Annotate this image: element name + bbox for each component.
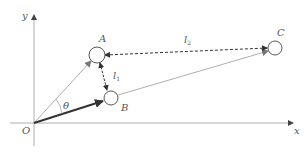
node-c <box>268 41 282 55</box>
l2-label: l2 <box>184 35 191 48</box>
theta-arc <box>56 99 62 114</box>
node-b <box>104 91 118 105</box>
node-a-label: A <box>99 34 106 44</box>
y-axis-label: y <box>22 11 28 21</box>
node-a <box>89 47 105 63</box>
distance-l2 <box>105 48 267 55</box>
l1-label: l1 <box>113 71 120 84</box>
l2-subscript: 2 <box>187 39 191 46</box>
theta-label: θ <box>63 101 69 111</box>
x-axis-label: x <box>294 126 300 136</box>
l1-subscript: 1 <box>116 75 120 82</box>
distance-l1 <box>100 63 107 90</box>
origin-label: O <box>22 126 30 136</box>
vector-bc <box>118 51 268 95</box>
node-b-label: B <box>121 103 128 113</box>
vector-diagram <box>0 0 308 152</box>
node-c-label: C <box>277 28 285 38</box>
